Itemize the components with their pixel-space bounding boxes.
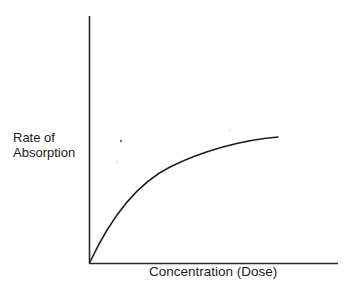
y-axis-label: Rate of Absorption <box>13 130 75 160</box>
speck-artifact <box>116 161 117 162</box>
x-axis-label: Concentration (Dose) <box>149 264 277 280</box>
absorption-curve <box>90 137 278 262</box>
y-axis-label-line-1: Rate of <box>13 130 75 145</box>
y-axis-label-line-2: Absorption <box>13 145 75 160</box>
speck-artifact <box>120 140 122 142</box>
speck-artifact <box>229 129 230 130</box>
